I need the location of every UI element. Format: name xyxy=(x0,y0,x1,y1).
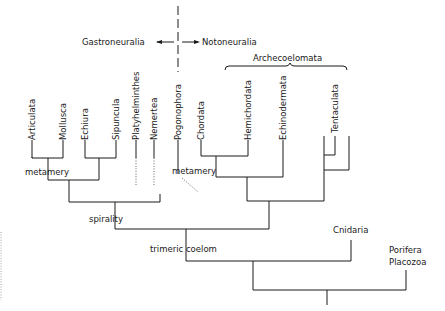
taxon-pogonophora: Pogonophora xyxy=(173,84,183,140)
gastroneuralia-label: Gastroneuralia xyxy=(82,37,145,47)
pogonophora-dotted xyxy=(182,178,198,192)
archecoelomata-label: Archecoelomata xyxy=(253,53,322,63)
taxon-nemertea: Nemertea xyxy=(149,98,159,140)
notoneuralia-tree xyxy=(201,136,349,228)
arrow-right-icon xyxy=(194,40,200,44)
outgroup-cnidaria: Cnidaria xyxy=(333,225,368,235)
arrow-left-icon xyxy=(156,40,162,44)
outgroup-placozoa: Placozoa xyxy=(389,257,426,267)
taxon-platyhelminthes: Platyhelminthes xyxy=(131,71,141,140)
taxon-sipuncula: Sipuncula xyxy=(111,98,121,140)
outgroup-porifera: Porifera xyxy=(389,245,422,255)
taxon-echinodermata: Echinodermata xyxy=(278,76,288,140)
taxon-hemichordata: Hemichordata xyxy=(243,80,253,140)
taxon-mollusca: Mollusca xyxy=(58,103,68,140)
taxon-articulata: Articulata xyxy=(27,99,37,140)
leaf-stems xyxy=(32,140,283,177)
archecoelomata-bracket xyxy=(225,63,347,70)
character-trimeric-coelom: trimeric coelom xyxy=(150,244,217,254)
notoneuralia-label: Notoneuralia xyxy=(202,37,257,47)
taxon-tentaculata: Tentaculata xyxy=(330,84,340,134)
taxon-labels: Articulata Mollusca Echiura Sipuncula Pl… xyxy=(27,71,340,140)
taxon-chordata: Chordata xyxy=(196,101,206,140)
base-tree xyxy=(115,228,406,305)
character-spirality: spirality xyxy=(89,214,123,224)
character-metamery-right: metamery xyxy=(172,166,216,176)
cladogram: Gastroneuralia Notoneuralia Archecoeloma… xyxy=(0,0,445,311)
character-metamery-left: metamery xyxy=(25,167,69,177)
taxon-echiura: Echiura xyxy=(80,108,90,140)
